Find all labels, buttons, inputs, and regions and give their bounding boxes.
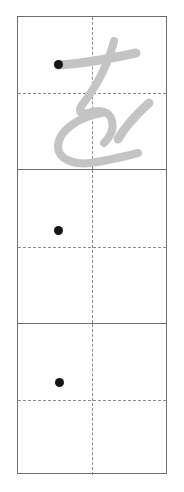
vertical-guide-line: [92, 324, 93, 475]
practice-cell-1[interactable]: を: [18, 17, 166, 169]
vertical-guide-line: [92, 17, 93, 169]
cell-1-character-text: を: [18, 17, 19, 18]
practice-grid: を: [17, 16, 167, 474]
stroke-start-dot: [54, 226, 63, 235]
practice-cell-3[interactable]: [18, 323, 166, 475]
cell-2-character-text: [18, 170, 19, 171]
handwriting-practice-worksheet: を: [0, 0, 184, 492]
stroke-start-dot: [55, 378, 64, 387]
cell-3-character-text: [18, 324, 19, 325]
stroke-start-dot: [54, 60, 63, 69]
vertical-guide-line: [92, 170, 93, 323]
practice-cell-2[interactable]: [18, 169, 166, 323]
